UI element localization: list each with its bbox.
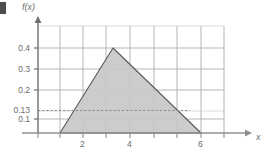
y-axis-title: f(x) bbox=[22, 2, 35, 12]
y-tick-label-0-2: 0.2 bbox=[4, 85, 30, 95]
x-axis-title: x bbox=[256, 132, 261, 142]
y-tick-label-0-4: 0.4 bbox=[4, 43, 30, 53]
y-axis bbox=[34, 16, 41, 133]
chart-figure: f(x) x 0.4 0.3 0.2 0.13 0.1 2 4 6 bbox=[0, 0, 265, 155]
x-tick-label-4: 4 bbox=[127, 139, 132, 149]
x-tick-label-6: 6 bbox=[198, 139, 203, 149]
x-tick-label-2: 2 bbox=[80, 139, 85, 149]
y-tick-label-0-1: 0.1 bbox=[4, 114, 30, 124]
y-tick-label-0-3: 0.3 bbox=[4, 64, 30, 74]
plot-area bbox=[0, 0, 265, 155]
